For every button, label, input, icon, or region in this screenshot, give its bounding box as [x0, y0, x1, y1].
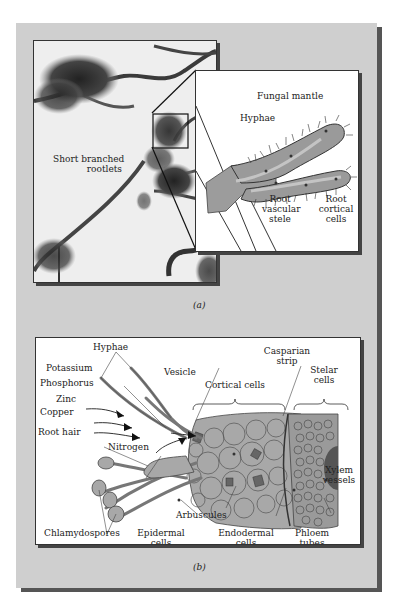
- label-root-hair: Root hair: [38, 427, 80, 437]
- label-line: Phloem: [292, 528, 332, 538]
- label-stelar-cells: Stelar cells: [304, 365, 344, 385]
- label-line: Xylem: [319, 465, 359, 475]
- label-line: cells: [318, 214, 354, 224]
- label-line: Short branched: [53, 154, 122, 164]
- label-line: cells: [136, 538, 186, 545]
- arbuscular-mycorrhiza-diagram: Hyphae Potassium Phosphorus Zinc Copper …: [35, 337, 361, 545]
- label-endodermal-cells: Endodermal cells: [216, 528, 276, 545]
- label-line: rootlets: [53, 164, 122, 174]
- label-root-vascular-stele: Root vascular stele: [262, 194, 298, 224]
- label-phloem-tubes: Phloem tubes: [292, 528, 332, 545]
- label-line: Epidermal: [136, 528, 186, 538]
- label-xylem-vessels: Xylem vessels: [319, 465, 359, 485]
- label-casparian-strip: Casparian strip: [262, 346, 312, 366]
- label-arbuscules: Arbuscules: [176, 510, 227, 520]
- label-line: vascular: [262, 204, 298, 214]
- label-line: cells: [304, 375, 344, 385]
- label-line: Stelar: [304, 365, 344, 375]
- caption-a: (a): [193, 300, 205, 310]
- label-copper: Copper: [40, 407, 73, 417]
- label-line: stele: [262, 214, 298, 224]
- label-line: Casparian: [262, 346, 312, 356]
- label-cortical-cells: Cortical cells: [205, 380, 265, 390]
- label-line: Root: [262, 194, 298, 204]
- label-line: Root: [318, 194, 354, 204]
- label-epidermal-cells: Epidermal cells: [136, 528, 186, 545]
- label-fungal-mantle: Fungal mantle: [257, 91, 323, 101]
- caption-b: (b): [193, 562, 206, 572]
- label-hyphae-a: Hyphae: [240, 113, 275, 123]
- label-hyphae-b: Hyphae: [93, 342, 128, 352]
- label-line: cortical: [318, 204, 354, 214]
- label-root-cortical-cells: Root cortical cells: [318, 194, 354, 224]
- label-short-branched-rootlets: Short branched rootlets: [53, 154, 122, 174]
- label-chlamydospores: Chlamydospores: [44, 528, 120, 538]
- label-vesicle: Vesicle: [164, 367, 196, 377]
- label-line: Endodermal: [216, 528, 276, 538]
- label-line: vessels: [319, 475, 359, 485]
- label-phosphorus: Phosphorus: [40, 378, 94, 388]
- label-nitrogen: Nitrogen: [108, 442, 149, 452]
- label-potassium: Potassium: [46, 363, 93, 373]
- label-zinc: Zinc: [56, 394, 76, 404]
- label-line: cells: [216, 538, 276, 545]
- label-line: tubes: [292, 538, 332, 545]
